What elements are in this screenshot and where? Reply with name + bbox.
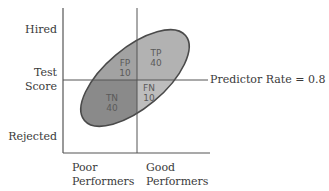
good-performers-label-line1: Good bbox=[146, 161, 175, 174]
tp-region bbox=[137, 0, 329, 80]
tp-value: 40 bbox=[150, 58, 162, 68]
poor-performers-label-line1: Poor bbox=[72, 161, 97, 174]
fp-value: 10 bbox=[119, 68, 131, 78]
poor-performers-label-line2: Performers bbox=[72, 175, 134, 188]
hired-label: Hired bbox=[0, 23, 57, 36]
rejected-label: Rejected bbox=[0, 130, 57, 143]
tn-value: 40 bbox=[106, 103, 118, 113]
tp-code: TP bbox=[150, 48, 162, 58]
test-score-label-line1: Test bbox=[0, 66, 57, 79]
fn-value: 10 bbox=[143, 93, 155, 103]
fn-code: FN bbox=[143, 83, 155, 93]
fp-code: FP bbox=[120, 58, 131, 68]
predictor-rate-label: Predictor Rate = 0.8 bbox=[210, 73, 325, 86]
tn-code: TN bbox=[105, 93, 118, 103]
test-score-label-line2: Score bbox=[0, 80, 57, 93]
good-performers-label-line2: Performers bbox=[146, 175, 208, 188]
